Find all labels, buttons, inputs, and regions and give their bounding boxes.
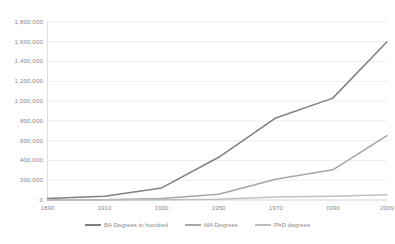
axis-lines	[48, 22, 388, 200]
x-tick-label: 1990	[313, 205, 353, 211]
y-tick-label: 1,800,000	[0, 19, 43, 25]
y-tick-label: 1,600,000	[0, 39, 43, 45]
x-tick-label: 2009	[367, 205, 395, 211]
series-line-2	[48, 195, 388, 200]
x-tick-label: 1930	[142, 205, 182, 211]
y-tick-label: 1,400,000	[0, 58, 43, 64]
chart-legend: BA Degrees in hundredMA DegreesPhD degre…	[0, 222, 395, 228]
line-chart: 1,800,0001,600,0001,400,0001,200,0001,00…	[0, 0, 395, 244]
gridlines	[48, 22, 388, 200]
x-tick-label: 1910	[85, 205, 125, 211]
y-tick-label: 800,000	[0, 118, 43, 124]
legend-label: PhD degrees	[274, 222, 310, 228]
x-tick-label: 1890	[28, 205, 68, 211]
legend-swatch-line-icon	[85, 224, 101, 226]
y-tick-label: 1,000,000	[0, 98, 43, 104]
y-tick-label: 200,000	[0, 177, 43, 183]
legend-swatch-line-icon	[185, 224, 201, 226]
legend-swatch-line-icon	[255, 224, 271, 226]
legend-label: BA Degrees in hundred	[104, 222, 168, 228]
legend-label: MA Degrees	[204, 222, 238, 228]
x-tick-label: 1950	[199, 205, 239, 211]
y-tick-label: 600,000	[0, 138, 43, 144]
legend-item[interactable]: BA Degrees in hundred	[85, 222, 168, 228]
series-line-1	[48, 136, 388, 200]
y-tick-label: 0	[0, 197, 43, 203]
y-tick-label: 1,200,000	[0, 78, 43, 84]
legend-item[interactable]: MA Degrees	[185, 222, 238, 228]
series-line-0	[48, 42, 388, 199]
x-tick-label: 1970	[256, 205, 296, 211]
legend-item[interactable]: PhD degrees	[255, 222, 310, 228]
y-tick-label: 400,000	[0, 157, 43, 163]
